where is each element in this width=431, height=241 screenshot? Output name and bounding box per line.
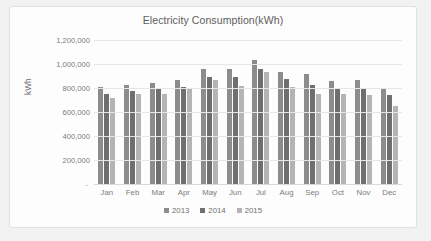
x-axis-tick-label: Sep — [299, 188, 325, 197]
gridline — [94, 112, 402, 113]
bar[interactable] — [329, 81, 334, 184]
bar[interactable] — [252, 60, 257, 184]
x-axis-tick-labels: JanFebMarAprMayJunJulAugSepOctNovDec — [94, 188, 402, 197]
y-axis-tick-labels: 1,200,0001,000,000800,000600,000400,0002… — [38, 40, 90, 184]
bar[interactable] — [341, 94, 346, 184]
x-axis-tick-label: Jun — [222, 188, 248, 197]
bar[interactable] — [104, 94, 109, 184]
plot-area — [94, 40, 402, 184]
gridline — [94, 160, 402, 161]
bar[interactable] — [227, 69, 232, 184]
y-axis-title: kWh — [23, 78, 33, 95]
bar[interactable] — [367, 95, 372, 184]
screenshot-root: Electricity Consumption(kWh) kWh 1,200,0… — [0, 0, 431, 241]
legend-item[interactable]: 2015 — [237, 206, 262, 215]
x-axis-tick-label: Dec — [376, 188, 402, 197]
bar[interactable] — [136, 94, 141, 184]
bar[interactable] — [124, 85, 129, 184]
legend-swatch-icon — [200, 208, 205, 213]
x-axis-tick-label: Feb — [120, 188, 146, 197]
x-axis-tick-label: Jan — [94, 188, 120, 197]
gridline — [94, 40, 402, 41]
legend-item-label: 2013 — [172, 206, 189, 215]
legend-item-label: 2015 — [245, 206, 262, 215]
x-axis-tick-label: Nov — [351, 188, 377, 197]
x-axis-tick-label: Aug — [274, 188, 300, 197]
x-axis-tick-label: Oct — [325, 188, 351, 197]
bar[interactable] — [110, 98, 115, 184]
legend-item-label: 2014 — [208, 206, 225, 215]
x-axis-tick-label: Jul — [248, 188, 274, 197]
y-axis-tick-label: 1,200,000 — [56, 36, 90, 45]
chart-title: Electricity Consumption(kWh) — [10, 14, 416, 26]
bar[interactable] — [355, 80, 360, 184]
gridline — [94, 136, 402, 137]
bar[interactable] — [316, 94, 321, 184]
chart-frame[interactable]: Electricity Consumption(kWh) kWh 1,200,0… — [9, 6, 417, 228]
legend-swatch-icon — [237, 208, 242, 213]
bar[interactable] — [258, 69, 263, 184]
bar[interactable] — [239, 86, 244, 184]
x-axis-tick-label: May — [197, 188, 223, 197]
legend-swatch-icon — [164, 208, 169, 213]
y-axis-tick-label: 1,000,000 — [56, 60, 90, 69]
bar[interactable] — [393, 106, 398, 184]
chart-legend[interactable]: 201320142015 — [10, 206, 416, 215]
y-axis-tick-label: 200,000 — [63, 156, 90, 165]
gridline — [94, 184, 402, 185]
bar[interactable] — [162, 94, 167, 184]
legend-item[interactable]: 2013 — [164, 206, 189, 215]
y-axis-tick-label: 800,000 — [63, 84, 90, 93]
gridline — [94, 88, 402, 89]
legend-item[interactable]: 2014 — [200, 206, 225, 215]
bar[interactable] — [284, 79, 289, 184]
x-axis-tick-label: Mar — [145, 188, 171, 197]
bar[interactable] — [207, 77, 212, 184]
bar[interactable] — [233, 77, 238, 184]
y-axis-tick-label: 600,000 — [63, 108, 90, 117]
bar[interactable] — [310, 85, 315, 184]
gridline — [94, 64, 402, 65]
bar[interactable] — [130, 91, 135, 184]
bar[interactable] — [175, 80, 180, 184]
bar[interactable] — [213, 80, 218, 184]
y-axis-zero-label: - — [85, 180, 88, 189]
x-axis-tick-label: Apr — [171, 188, 197, 197]
bar[interactable] — [387, 95, 392, 184]
bar[interactable] — [304, 74, 309, 184]
y-axis-tick-label: 400,000 — [63, 132, 90, 141]
bar[interactable] — [150, 83, 155, 184]
bar[interactable] — [201, 69, 206, 184]
